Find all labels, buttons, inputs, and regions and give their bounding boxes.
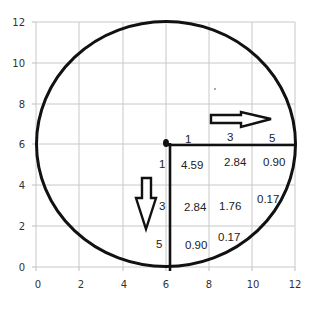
y-tick-8: 8 <box>19 99 25 110</box>
x-tick-6: 6 <box>163 279 169 290</box>
x-tick-8: 8 <box>206 279 212 290</box>
value-r3-c1: 2.84 <box>184 201 207 213</box>
center-point-marker <box>163 139 169 147</box>
value-r1-c3: 2.84 <box>224 156 247 168</box>
value-r5-c3: 0.17 <box>218 231 240 243</box>
x-tick-12: 12 <box>289 279 302 290</box>
diagram-canvas: 12 10 8 6 4 2 0 0 2 4 6 8 10 12 1 3 5 1 … <box>0 0 314 309</box>
column-labels: 1 3 5 <box>185 131 275 145</box>
value-r1-c1: 4.59 <box>181 159 203 171</box>
row-label-5: 5 <box>156 238 162 250</box>
column-label-1: 1 <box>185 133 191 145</box>
y-tick-12: 12 <box>12 17 25 28</box>
row-label-1: 1 <box>159 158 165 170</box>
value-r1-c5: 0.90 <box>263 156 285 168</box>
y-axis-labels: 12 10 8 6 4 2 0 <box>12 17 25 273</box>
x-tick-4: 4 <box>121 279 127 290</box>
x-axis-labels: 0 2 4 6 8 10 12 <box>35 279 302 290</box>
column-label-3: 3 <box>227 131 233 143</box>
x-tick-0: 0 <box>35 279 41 290</box>
y-tick-10: 10 <box>12 58 25 69</box>
stray-dot <box>214 88 216 90</box>
y-tick-6: 6 <box>19 139 25 150</box>
arrow-down-icon <box>136 178 156 229</box>
cell-values: 4.59 2.84 0.90 2.84 1.76 0.17 0.90 0.17 <box>181 156 285 251</box>
x-tick-2: 2 <box>78 279 84 290</box>
column-label-5: 5 <box>269 132 275 144</box>
value-r3-c5: 0.17 <box>257 193 279 205</box>
y-tick-4: 4 <box>19 180 25 191</box>
arrow-right-icon <box>211 112 271 127</box>
value-r5-c1: 0.90 <box>185 239 207 251</box>
row-label-3: 3 <box>159 200 165 212</box>
row-labels: 1 3 5 <box>156 158 165 250</box>
x-tick-10: 10 <box>247 279 260 290</box>
y-tick-2: 2 <box>19 221 25 232</box>
y-tick-0: 0 <box>19 262 25 273</box>
value-r3-c3: 1.76 <box>219 200 241 212</box>
